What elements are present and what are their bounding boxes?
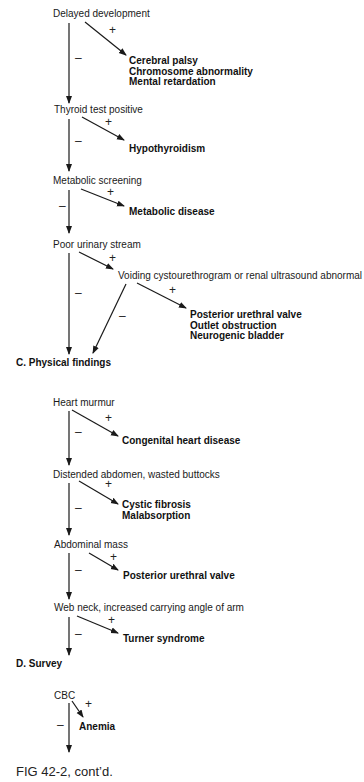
positive-arrow [137,283,186,308]
plus-sign: + [110,550,117,564]
minus-sign: – [75,501,82,515]
outcome-malabsorption: Malabsorption [122,510,190,521]
minus-sign: – [119,309,126,323]
outcome-mental-retardation: Mental retardation [129,76,216,87]
node-abdominal-mass: Abdominal mass [54,539,128,550]
outcome-metabolic-disease: Metabolic disease [129,206,215,217]
minus-sign: – [75,627,82,641]
positive-arrow [79,481,118,504]
node-heart-murmur: Heart murmur [53,397,115,408]
minus-sign: – [57,718,64,732]
outcome-turner-syndrome: Turner syndrome [123,633,205,644]
node-poor-urinary-stream: Poor urinary stream [53,239,141,250]
node-metabolic-screening: Metabolic screening [53,175,142,186]
minus-sign: – [75,51,82,65]
minus-sign: – [75,134,82,148]
outcome-neurogenic-bladder: Neurogenic bladder [190,330,284,341]
plus-sign: + [107,185,114,199]
plus-sign: + [105,115,112,129]
flowchart: Delayed development – + Cerebral palsy C… [0,0,364,782]
outcome-congenital-heart-disease: Congenital heart disease [122,435,241,446]
plus-sign: + [105,477,112,491]
outcome-posterior-urethral-valve-2: Posterior urethral valve [123,570,235,581]
figure-caption: FIG 42-2, cont’d. [16,764,113,779]
outcome-hypothyroidism: Hypothyroidism [129,143,205,154]
plus-sign: + [109,23,116,37]
minus-sign: – [75,286,82,300]
node-delayed-development: Delayed development [53,8,150,19]
positive-arrow [79,252,113,269]
plus-sign: + [169,283,176,297]
node-web-neck: Web neck, increased carrying angle of ar… [54,602,244,613]
minus-sign: – [75,425,82,439]
node-thyroid-test: Thyroid test positive [54,104,143,115]
section-d-title: D. Survey [16,658,63,669]
plus-sign: + [105,411,112,425]
positive-arrow [72,701,83,717]
node-cbc: CBC [54,690,75,701]
plus-sign: + [109,251,116,265]
section-c-title: C. Physical findings [16,357,111,368]
positive-arrow [82,117,124,140]
positive-arrow [81,189,124,206]
positive-arrow [85,22,126,55]
outcome-anemia: Anemia [79,721,116,732]
node-voiding-cystourethrogram: Voiding cystourethrogram or renal ultras… [118,270,362,281]
plus-sign: + [85,697,92,711]
minus-sign: – [59,199,66,213]
outcome-cystic-fibrosis: Cystic fibrosis [122,499,191,510]
outcome-posterior-urethral-valve: Posterior urethral valve [190,309,302,320]
plus-sign: + [108,613,115,627]
node-distended-abdomen: Distended abdomen, wasted buttocks [53,469,220,480]
minus-sign: – [75,563,82,577]
outcome-cerebral-palsy: Cerebral palsy [129,55,198,66]
